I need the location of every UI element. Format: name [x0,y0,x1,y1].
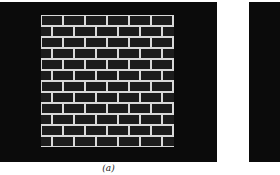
brick [118,26,140,37]
brick [173,103,174,114]
brick [151,103,173,114]
brick [129,125,151,136]
brick [52,26,74,37]
brick [85,81,107,92]
brick [41,59,63,70]
brick [41,125,63,136]
brick [140,48,162,59]
brick [140,92,162,103]
brick-row [41,81,174,92]
brick [107,15,129,26]
brick [118,114,140,125]
brick-wall-texture [41,15,174,150]
brick-row [41,103,174,114]
brick [129,59,151,70]
brick [162,136,174,147]
brick [151,15,173,26]
brick [96,26,118,37]
brick [52,48,74,59]
figure-panel-a [0,2,217,162]
brick [162,26,174,37]
brick [96,48,118,59]
brick [140,70,162,81]
brick [85,59,107,70]
brick [162,48,174,59]
brick [173,15,174,26]
brick-row [41,92,174,103]
brick-row [41,114,174,125]
brick [63,125,85,136]
brick [129,37,151,48]
brick [151,59,173,70]
brick [41,103,63,114]
brick [173,37,174,48]
brick [63,103,85,114]
brick [52,114,74,125]
brick [107,81,129,92]
brick [85,15,107,26]
brick [107,37,129,48]
brick [118,70,140,81]
brick [140,136,162,147]
brick [52,136,74,147]
brick [96,136,118,147]
brick [41,92,52,103]
brick [96,70,118,81]
brick [74,70,96,81]
brick [140,26,162,37]
brick [129,103,151,114]
brick [41,48,52,59]
brick [140,114,162,125]
brick [151,81,173,92]
brick-row [41,37,174,48]
brick [96,114,118,125]
brick [85,103,107,114]
brick-row [41,15,174,26]
brick [41,70,52,81]
brick [162,70,174,81]
brick [85,125,107,136]
brick [107,59,129,70]
brick [118,48,140,59]
brick [118,136,140,147]
brick [63,59,85,70]
brick [74,114,96,125]
brick [63,37,85,48]
brick-row [41,48,174,59]
brick [129,81,151,92]
brick-row [41,59,174,70]
brick [63,81,85,92]
brick [74,136,96,147]
figure-panel-b [249,2,280,162]
brick [107,103,129,114]
brick [85,37,107,48]
brick [118,92,140,103]
brick [151,37,173,48]
brick [41,81,63,92]
brick-row [41,136,174,147]
brick [41,114,52,125]
brick [96,92,118,103]
brick [151,125,173,136]
brick-row [41,70,174,81]
brick [129,15,151,26]
brick [63,15,85,26]
brick [41,37,63,48]
brick [74,92,96,103]
brick [173,81,174,92]
brick [74,26,96,37]
brick [41,15,63,26]
brick-row [41,26,174,37]
brick [41,136,52,147]
brick [52,92,74,103]
brick [173,59,174,70]
brick [52,70,74,81]
brick [162,114,174,125]
brick [41,26,52,37]
brick-row [41,125,174,136]
brick [107,125,129,136]
brick [173,125,174,136]
brick [162,92,174,103]
panel-a-caption: (a) [0,163,217,173]
brick [74,48,96,59]
